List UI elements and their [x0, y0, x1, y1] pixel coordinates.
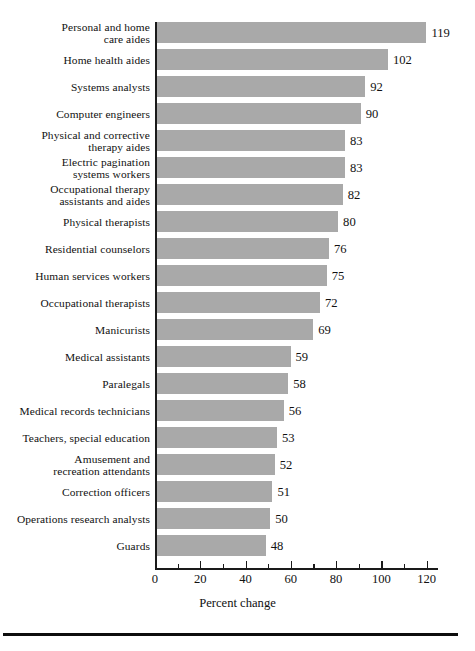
bar-row: Amusement and recreation attendants52: [0, 454, 475, 475]
bar: [157, 265, 327, 286]
x-tick-major: [200, 561, 201, 568]
x-tick-label: 80: [330, 572, 343, 587]
category-label: Teachers, special education: [5, 431, 150, 443]
bar-row: Manicurists69: [0, 319, 475, 340]
bar: [157, 211, 338, 232]
bar-value-label: 83: [350, 160, 363, 175]
x-axis-line: [155, 568, 438, 570]
plot-area: Personal and home care aides119Home heal…: [0, 22, 475, 567]
x-tick-minor: [313, 564, 314, 568]
bar-row: Electric pagination systems workers83: [0, 157, 475, 178]
bar: [157, 49, 388, 70]
bar: [157, 319, 313, 340]
bar-value-label: 59: [296, 349, 309, 364]
category-label: Manicurists: [5, 323, 150, 335]
bar: [157, 373, 288, 394]
x-tick-label: 60: [285, 572, 298, 587]
category-label: Medical records technicians: [5, 404, 150, 416]
bar-value-label: 58: [293, 376, 306, 391]
bar: [157, 238, 329, 259]
bar: [157, 157, 345, 178]
category-label: Home health aides: [5, 53, 150, 65]
x-tick-minor: [223, 564, 224, 568]
bar: [157, 130, 345, 151]
category-label: Paralegals: [5, 377, 150, 389]
bar-value-label: 53: [282, 430, 295, 445]
category-label: Systems analysts: [5, 80, 150, 92]
bar: [157, 76, 365, 97]
category-label: Operations research analysts: [5, 512, 150, 524]
bar: [157, 508, 270, 529]
bar-row: Residential counselors76: [0, 238, 475, 259]
bar-row: Systems analysts92: [0, 76, 475, 97]
bar-row: Occupational therapy assistants and aide…: [0, 184, 475, 205]
x-tick-label: 40: [239, 572, 252, 587]
bar-row: Human services workers75: [0, 265, 475, 286]
x-tick-minor: [268, 564, 269, 568]
x-tick-label: 0: [152, 572, 158, 587]
category-label: Occupational therapy assistants and aide…: [5, 182, 150, 207]
category-label: Human services workers: [5, 269, 150, 281]
bar-row: Physical therapists80: [0, 211, 475, 232]
bar-row: Guards48: [0, 535, 475, 556]
bar: [157, 427, 277, 448]
bar-chart-figure: Personal and home care aides119Home heal…: [0, 0, 475, 651]
bar-row: Computer engineers90: [0, 103, 475, 124]
bar-value-label: 76: [334, 241, 347, 256]
bottom-rule-divider: [3, 633, 458, 636]
bar-value-label: 90: [366, 106, 379, 121]
x-tick-label: 20: [194, 572, 207, 587]
bar-value-label: 56: [289, 403, 302, 418]
bar-row: Teachers, special education53: [0, 427, 475, 448]
x-tick-major: [246, 561, 247, 568]
bar-value-label: 48: [271, 538, 284, 553]
bar-row: Correction officers51: [0, 481, 475, 502]
category-label: Amusement and recreation attendants: [5, 452, 150, 477]
x-tick-major: [291, 561, 292, 568]
bar: [157, 481, 272, 502]
bar-row: Personal and home care aides119: [0, 22, 475, 43]
bar: [157, 103, 361, 124]
bar-value-label: 51: [277, 484, 290, 499]
category-label: Correction officers: [5, 485, 150, 497]
bar-row: Medical assistants59: [0, 346, 475, 367]
category-label: Physical therapists: [5, 215, 150, 227]
x-tick-minor: [404, 564, 405, 568]
bar-row: Operations research analysts50: [0, 508, 475, 529]
bar-row: Physical and corrective therapy aides83: [0, 130, 475, 151]
bar-value-label: 50: [275, 511, 288, 526]
category-label: Guards: [5, 539, 150, 551]
category-label: Computer engineers: [5, 107, 150, 119]
x-tick-major: [427, 561, 428, 568]
bar: [157, 292, 320, 313]
x-axis-title: Percent change: [0, 596, 475, 611]
bar: [157, 400, 284, 421]
bar: [157, 184, 343, 205]
bar: [157, 535, 266, 556]
x-tick-minor: [359, 564, 360, 568]
bar-row: Occupational therapists72: [0, 292, 475, 313]
x-tick-label: 100: [372, 572, 391, 587]
bar-value-label: 72: [325, 295, 338, 310]
x-tick-major: [381, 561, 382, 568]
bar: [157, 454, 275, 475]
bar: [157, 346, 291, 367]
bar-value-label: 102: [393, 52, 412, 67]
bar-value-label: 83: [350, 133, 363, 148]
bar-value-label: 52: [280, 457, 293, 472]
x-axis-ticks: [155, 561, 438, 568]
bar-value-label: 82: [348, 187, 361, 202]
category-label: Residential counselors: [5, 242, 150, 254]
bar-value-label: 92: [370, 79, 383, 94]
bar-row: Home health aides102: [0, 49, 475, 70]
category-label: Personal and home care aides: [5, 20, 150, 45]
category-label: Electric pagination systems workers: [5, 155, 150, 180]
y-axis-line: [155, 22, 157, 568]
category-label: Physical and corrective therapy aides: [5, 128, 150, 153]
bar-row: Paralegals58: [0, 373, 475, 394]
bar-row: Medical records technicians56: [0, 400, 475, 421]
x-tick-major: [336, 561, 337, 568]
bar: [157, 22, 426, 43]
bar-value-label: 69: [318, 322, 331, 337]
bar-value-label: 80: [343, 214, 356, 229]
